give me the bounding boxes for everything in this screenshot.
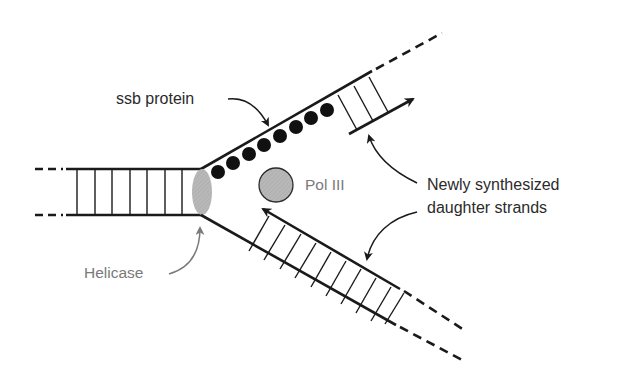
ssb-protein-label: ssb protein xyxy=(116,91,194,107)
parental-duplex xyxy=(35,169,202,215)
ssb-leader-arrow xyxy=(228,99,268,125)
upper-daughter-strand xyxy=(338,77,413,134)
lower-daughter-strand xyxy=(249,209,464,330)
helicase-icon xyxy=(192,169,212,215)
newly-leader-arrow-upper xyxy=(369,136,417,183)
parental-base-pairs xyxy=(77,169,182,215)
helicase-leader-arrow xyxy=(169,228,200,274)
upper-daughter-line xyxy=(349,99,413,134)
pol-iii-icon xyxy=(259,168,293,202)
ssb-proteins xyxy=(211,103,334,179)
lower-daughter-line xyxy=(263,209,400,289)
upper-template-strand xyxy=(201,33,442,169)
newly-leader-arrow-lower xyxy=(367,212,417,259)
newly-synthesized-label-line2: daughter strands xyxy=(427,200,547,216)
helicase-label: Helicase xyxy=(84,265,143,281)
lower-template-strand xyxy=(201,215,466,362)
lower-daughter-dashes xyxy=(404,291,464,330)
newly-synthesized-label-line1: Newly synthesized xyxy=(427,177,560,193)
pol-iii-label: Pol III xyxy=(305,177,345,193)
